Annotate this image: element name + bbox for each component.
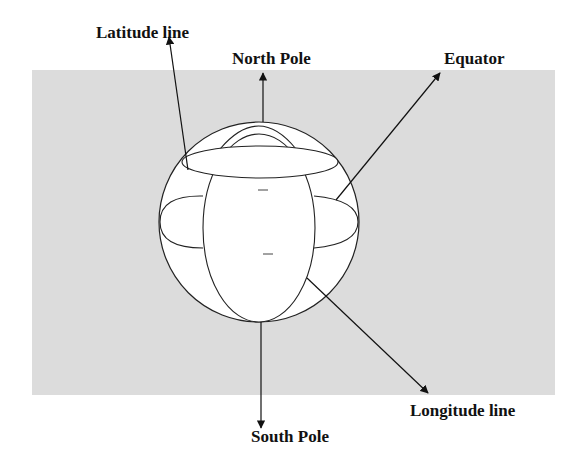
- label-north-pole: North Pole: [232, 50, 311, 67]
- sphere: [159, 122, 359, 322]
- latitude-ellipse: [182, 146, 338, 178]
- label-longitude-line: Longitude line: [410, 402, 515, 419]
- label-latitude-line: Latitude line: [96, 24, 189, 41]
- diagram-canvas: Latitude line North Pole Equator Longitu…: [0, 0, 585, 466]
- equator-arrow: [336, 73, 440, 200]
- label-equator: Equator: [444, 50, 504, 67]
- sphere-diagram: [0, 0, 585, 466]
- label-south-pole: South Pole: [251, 428, 329, 445]
- longitude-line-arrow: [307, 278, 428, 393]
- latitude-line-arrow: [169, 37, 188, 170]
